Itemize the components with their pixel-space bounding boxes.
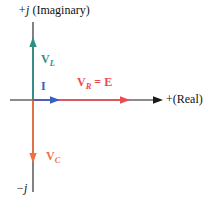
phasor-label-vc: VC [46,150,60,162]
vl-arrowhead-icon [29,37,36,47]
real-axis-label: +(Real) [166,93,203,105]
vc-symbol: V [46,149,55,163]
negative-imaginary-axis-label: −j [16,182,27,194]
imaginary-axis-text: (Imaginary) [29,3,89,17]
imaginary-axis-label: +j (Imaginary) [18,4,90,16]
vr-equals-e: = E [91,75,112,89]
phasor-i [33,96,60,103]
vc-subscript: C [55,155,61,165]
phasor-label-i: I [41,80,46,92]
vr-arrowhead-icon [120,96,130,103]
vr-symbol: V [77,75,86,89]
imaginary-axis-symbol: +j [18,3,29,17]
vr-subscript: R [86,81,92,91]
vl-symbol: V [41,52,50,66]
phasor-vl [29,37,36,100]
phasor-label-vl: VL [41,53,55,65]
real-axis-arrowhead-icon [153,96,163,103]
phasor-vc [29,100,36,163]
i-arrowhead-icon [50,96,60,103]
i-symbol: I [41,79,46,93]
vl-subscript: L [50,58,55,68]
phasor-diagram-figure: +j (Imaginary) −j +(Real) VL I VR = E VC [0,0,214,204]
vc-arrowhead-icon [29,153,36,163]
phasor-label-vr: VR = E [77,76,112,88]
